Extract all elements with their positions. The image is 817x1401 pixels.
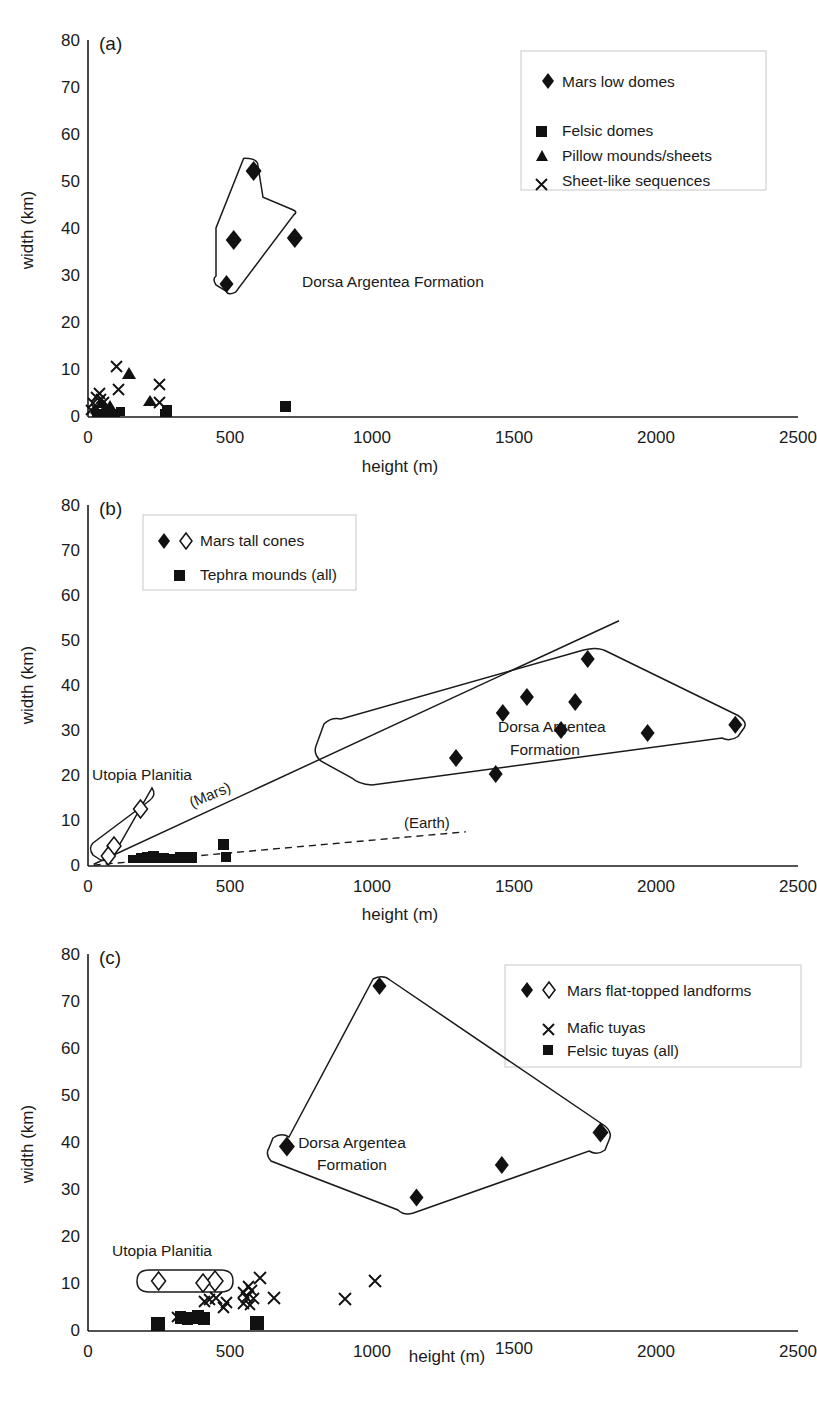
panel-letter-a: (a): [99, 33, 122, 54]
x-tick-label: 0: [83, 428, 92, 447]
panel-a-plot: 80 70 60 50 40 30 20 10 0 width (km) 0 5…: [0, 0, 817, 478]
panel-letter-c: (c): [99, 947, 121, 968]
panel-a: 80 70 60 50 40 30 20 10 0 width (km) 0 5…: [0, 0, 817, 478]
y-tick-label: 80: [61, 945, 80, 964]
series-sheet-like-sequences: [86, 361, 165, 415]
x-tick-label: 2000: [637, 1342, 675, 1361]
x-tick-label: 500: [216, 428, 244, 447]
panel-a-x-axis: 0 500 1000 1500 2000 2500: [83, 417, 817, 447]
x-tick-label: 2000: [637, 877, 675, 896]
x-tick-label: 2500: [779, 428, 817, 447]
x-tick-label: 1000: [353, 1342, 391, 1361]
y-tick-label: 50: [61, 1086, 80, 1105]
panel-c-y-axis: 80 70 60 50 40 30 20 10 0: [61, 945, 88, 1340]
y-tick-label: 60: [61, 586, 80, 605]
y-tick-label: 80: [61, 31, 80, 50]
x-tick-label: 500: [216, 877, 244, 896]
y-tick-label: 70: [61, 78, 80, 97]
y-tick-label: 10: [61, 811, 80, 830]
legend-label: Mars flat-topped landforms: [567, 982, 752, 999]
legend-label: Felsic tuyas (all): [567, 1042, 679, 1059]
y-tick-label: 80: [61, 496, 80, 515]
panel-a-legend: Mars low domes Felsic domes Pillow mound…: [521, 51, 766, 190]
legend-item: Sheet-like sequences: [536, 172, 710, 190]
hull-utopia-planitia-b: [91, 788, 154, 860]
y-tick-label: 60: [61, 125, 80, 144]
y-tick-label: 60: [61, 1039, 80, 1058]
x-tick-label: 1500: [495, 877, 533, 896]
y-tick-label: 30: [61, 1180, 80, 1199]
annotation-dorsa-argentea-a: Dorsa Argentea Formation: [302, 273, 484, 290]
square-filled-icon: [536, 126, 547, 137]
annotation-utopia-planitia-c: Utopia Planitia: [112, 1242, 212, 1259]
legend-item: Pillow mounds/sheets: [536, 147, 712, 164]
legend-label: Pillow mounds/sheets: [562, 147, 712, 164]
legend-label: Felsic domes: [562, 122, 654, 139]
x-tick-label: 0: [83, 877, 92, 896]
y-tick-label: 50: [61, 631, 80, 650]
y-tick-label: 50: [61, 172, 80, 191]
annotation-earth: (Earth): [404, 814, 450, 831]
panel-b-y-axis: 80 70 60 50 40 30 20 10 0: [61, 496, 88, 875]
panel-b-plot: 80 70 60 50 40 30 20 10 0 width (km) 0 5…: [0, 470, 817, 925]
x-tick-label: 0: [83, 1342, 92, 1361]
square-filled-icon: [174, 570, 185, 581]
y-tick-label: 40: [61, 676, 80, 695]
y-tick-label: 20: [61, 313, 80, 332]
x-tick-label: 1000: [353, 877, 391, 896]
square-filled-icon: [543, 1045, 553, 1055]
y-tick-label: 10: [61, 1274, 80, 1293]
annotation-dorsa-argentea-c: Dorsa Argentea: [298, 1134, 406, 1151]
y-axis-title: width (km): [18, 646, 37, 725]
y-tick-label: 40: [61, 219, 80, 238]
y-tick-label: 20: [61, 1227, 80, 1246]
y-tick-label: 30: [61, 266, 80, 285]
panel-b-x-axis: 0 500 1000 1500 2000 2500: [83, 866, 817, 896]
y-tick-label: 20: [61, 766, 80, 785]
y-tick-label: 30: [61, 721, 80, 740]
annotation-dorsa-argentea-b2: Formation: [510, 741, 580, 758]
panel-b: 80 70 60 50 40 30 20 10 0 width (km) 0 5…: [0, 470, 817, 925]
y-tick-label: 0: [71, 1321, 80, 1340]
y-tick-label: 70: [61, 992, 80, 1011]
annotation-utopia-planitia-b: Utopia Planitia: [92, 766, 192, 783]
series-tephra-mounds: [128, 839, 231, 863]
x-axis-title: height (m): [409, 1347, 486, 1366]
y-axis-title: width (km): [18, 1105, 37, 1184]
panel-c-legend: Mars flat-topped landforms Mafic tuyas F…: [505, 965, 801, 1067]
panel-letter-b: (b): [99, 498, 122, 519]
legend-label: Mars low domes: [562, 73, 675, 90]
legend-item: Mars low domes: [542, 73, 675, 90]
series-felsic-domes: [92, 401, 291, 417]
panel-a-y-axis: 80 70 60 50 40 30 20 10 0: [61, 31, 88, 426]
x-tick-label: 2000: [637, 428, 675, 447]
annotation-dorsa-argentea-b: Dorsa Argentea: [498, 718, 606, 735]
x-tick-label: 1500: [495, 1339, 533, 1358]
legend-label: Mars tall cones: [200, 532, 304, 549]
y-tick-label: 40: [61, 1133, 80, 1152]
figure-root: 80 70 60 50 40 30 20 10 0 width (km) 0 5…: [0, 0, 817, 1401]
legend-label: Tephra mounds (all): [200, 566, 337, 583]
annotation-dorsa-argentea-c2: Formation: [317, 1156, 387, 1173]
panel-c: 80 70 60 50 40 30 20 10 0 width (km) 0 5…: [0, 920, 817, 1401]
series-mars-low-domes: [220, 161, 303, 293]
x-tick-label: 500: [216, 1342, 244, 1361]
legend-label: Mafic tuyas: [567, 1019, 646, 1036]
x-tick-label: 2500: [779, 1342, 817, 1361]
y-tick-label: 0: [71, 856, 80, 875]
series-felsic-tuyas: [151, 1310, 264, 1331]
hull-dorsa-argentea-b: [315, 648, 745, 785]
y-tick-label: 0: [71, 407, 80, 426]
x-tick-label: 1500: [495, 428, 533, 447]
series-mars-tall-cones: [449, 650, 742, 783]
series-mars-flat-topped-utopia: [152, 1271, 223, 1292]
panel-b-legend: Mars tall cones Tephra mounds (all): [143, 515, 356, 590]
y-tick-label: 70: [61, 541, 80, 560]
annotation-mars: (Mars): [187, 778, 234, 811]
x-tick-label: 2500: [779, 877, 817, 896]
y-axis-title: width (km): [18, 191, 37, 270]
legend-label: Sheet-like sequences: [562, 172, 710, 189]
x-tick-label: 1000: [353, 428, 391, 447]
y-tick-label: 10: [61, 360, 80, 379]
panel-c-plot: 80 70 60 50 40 30 20 10 0 width (km) 0 5…: [0, 920, 817, 1401]
